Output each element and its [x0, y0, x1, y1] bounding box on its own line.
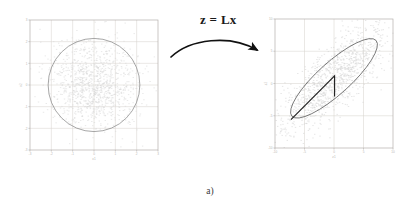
- right-plot-svg: -10-50510-10-50510z1z2: [263, 16, 398, 166]
- x-tick-label: 0: [333, 150, 335, 154]
- y-tick-label: -2: [25, 127, 28, 131]
- figure-caption: a): [0, 186, 420, 196]
- y-tick-label: 0: [26, 83, 28, 87]
- x-tick-label: 10: [391, 150, 395, 154]
- y-tick-label: -10: [268, 146, 273, 150]
- x-tick-label: -2: [50, 152, 53, 156]
- y-tick-label: 3: [26, 18, 28, 22]
- left-plot-svg: -3-2-10123-3-2-10123x1x2: [18, 17, 163, 168]
- y-axis-label: z2: [264, 82, 268, 86]
- y-axis-label: x2: [19, 83, 23, 87]
- x-tick-label: -5: [303, 150, 306, 154]
- y-tick-label: 1: [26, 62, 28, 66]
- x-tick-label: 0: [93, 152, 95, 156]
- x-tick-label: -10: [273, 150, 278, 154]
- y-tick-label: -3: [25, 148, 28, 152]
- y-tick-label: 2: [26, 40, 28, 44]
- x-axis-label: x1: [92, 157, 96, 161]
- y-tick-label: 5: [271, 49, 273, 53]
- y-tick-label: -1: [25, 105, 28, 109]
- x-tick-label: -1: [71, 152, 74, 156]
- right-scatter-plot: -10-50510-10-50510z1z2: [263, 16, 398, 166]
- x-tick-label: 2: [136, 152, 138, 156]
- x-axis-label: z1: [332, 155, 336, 159]
- figure-container: -3-2-10123-3-2-10123x1x2 z = Lx -10-5051…: [0, 0, 420, 208]
- x-tick-label: -3: [29, 152, 32, 156]
- y-tick-label: 10: [269, 17, 273, 21]
- transform-arrow: [168, 30, 272, 68]
- x-tick-label: 3: [157, 152, 159, 156]
- x-tick-label: 1: [114, 152, 116, 156]
- x-tick-label: 5: [363, 150, 365, 154]
- curved-arrow-icon: [168, 30, 272, 68]
- transform-equation-label: z = Lx: [200, 12, 237, 28]
- y-tick-label: -5: [270, 114, 273, 118]
- y-tick-label: 0: [271, 82, 273, 86]
- left-scatter-plot: -3-2-10123-3-2-10123x1x2: [18, 17, 163, 168]
